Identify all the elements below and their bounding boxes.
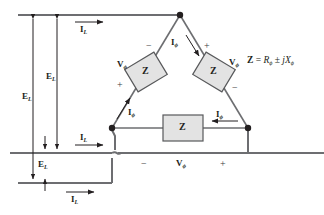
supply-line-middle xyxy=(10,152,324,154)
label-Iphi-bottom-left: Iϕ xyxy=(128,108,135,117)
polarity-bottom-minus: − xyxy=(141,159,147,169)
node-bottom-right xyxy=(245,125,251,131)
label-Z-left: Z xyxy=(142,66,149,76)
label-Z-bottom: Z xyxy=(179,122,186,132)
polarity-left-minus: − xyxy=(146,41,152,51)
polarity-left-plus: + xyxy=(117,80,123,90)
impedance-equation: Z = Rϕ ± jXϕ xyxy=(247,56,294,66)
polarity-bottom-plus: + xyxy=(220,159,226,169)
label-EL-outer: EL xyxy=(22,92,32,101)
label-Vphi-left: Vϕ xyxy=(117,60,127,69)
equation-reactance-sub: ϕ xyxy=(291,60,294,66)
label-Z-right: Z xyxy=(210,66,217,76)
label-EL-lower: EL xyxy=(38,160,48,169)
polarity-right-minus: − xyxy=(232,83,238,93)
polarity-right-plus: + xyxy=(204,41,210,51)
equation-plusminus: ± xyxy=(275,55,280,65)
current-arrow-Iphi-top-right xyxy=(186,35,199,56)
node-apex xyxy=(177,12,183,18)
label-Iphi-top-right: Iϕ xyxy=(171,38,178,47)
label-IL-middle: IL xyxy=(80,133,87,142)
label-Vphi-bottom: Vϕ xyxy=(176,159,186,168)
delta-circuit-svg xyxy=(0,0,324,215)
label-Vphi-right: Vϕ xyxy=(229,58,239,67)
equation-equals: = xyxy=(256,55,261,65)
equation-reactance: X xyxy=(285,55,291,65)
label-IL-bottom: IL xyxy=(71,195,78,204)
node-bottom-left xyxy=(109,125,115,131)
label-IL-top: IL xyxy=(80,25,87,34)
label-EL-middle: EL xyxy=(46,72,56,81)
circuit-diagram-canvas: EL EL EL IL IL IL Iϕ Iϕ Iϕ Vϕ Vϕ Vϕ Z Z … xyxy=(0,0,324,215)
equation-lhs: Z xyxy=(247,55,253,65)
equation-resistance-sub: ϕ xyxy=(269,60,272,66)
label-Iphi-bottom-right: Iϕ xyxy=(216,110,223,119)
feeder-to-node-a xyxy=(112,130,115,183)
